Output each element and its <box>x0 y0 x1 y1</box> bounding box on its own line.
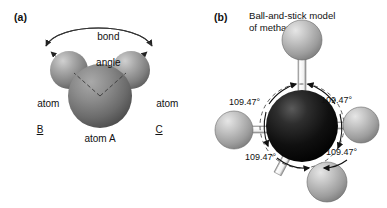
hydrogen-top-sphere <box>282 20 322 60</box>
panel-b: (b) Ball-and-stick model of methane <box>197 0 387 208</box>
bond-angle-label: bond angle <box>73 17 127 82</box>
angle-label-top-left: 109.47° <box>229 97 260 107</box>
atom-c-label: atom C <box>137 84 181 162</box>
atom-a-label: atom A <box>64 133 136 145</box>
angle-label-bottom-right: 109.47° <box>326 147 357 157</box>
bond-angle-label-line2: angle <box>96 57 120 68</box>
panel-a: (a) <box>0 0 197 208</box>
angle-label-top-right: 109.47° <box>321 95 352 105</box>
atom-b-label-line2: B <box>18 123 62 136</box>
hydrogen-left-sphere <box>215 111 253 149</box>
angle-label-bottom-left: 109.47° <box>245 152 276 162</box>
hydrogen-right-sphere <box>343 107 379 143</box>
atom-c-label-line2: C <box>137 123 181 136</box>
atom-b-label-line1: atom <box>37 98 59 109</box>
bond-angle-label-line1: bond <box>97 31 119 42</box>
atom-c-label-line1: atom <box>156 98 178 109</box>
figure-container: (a) <box>0 0 387 208</box>
atom-b-label: atom B <box>18 84 62 162</box>
methane-graphic <box>197 0 387 208</box>
